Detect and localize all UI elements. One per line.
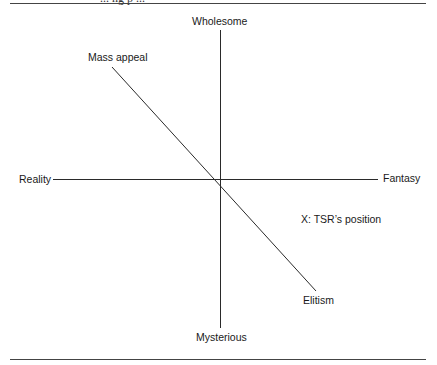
label-wholesome: Wholesome [192, 16, 247, 27]
label-reality: Reality [19, 174, 51, 185]
label-mass-appeal: Mass appeal [88, 52, 148, 63]
label-elitism: Elitism [303, 295, 334, 306]
label-mysterious: Mysterious [196, 332, 247, 343]
label-fantasy: Fantasy [383, 173, 420, 184]
annotation-tsr-position: X: TSR’s position [301, 214, 381, 225]
perceptual-map-figure: ... ng p ... Wholesome Mass appeal Reali… [0, 0, 437, 365]
diagram-lines [0, 0, 437, 365]
